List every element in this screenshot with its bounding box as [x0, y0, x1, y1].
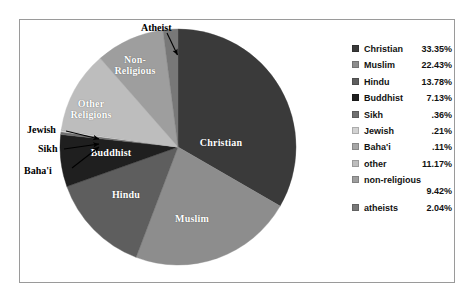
- legend-item-label: other: [364, 159, 387, 169]
- slice-label-buddhist: Buddhist: [82, 147, 140, 158]
- legend-item-value: 13.78%: [417, 77, 452, 87]
- legend-item-body: Hindu13.78%: [364, 77, 452, 87]
- slice-label-other-religions-line1: Other: [78, 98, 105, 109]
- legend-item-body: Buddhist7.13%: [364, 93, 452, 103]
- legend-item-label: Sikh: [364, 110, 383, 120]
- legend-item-label: Muslim: [364, 60, 395, 70]
- callout-label-sikh: Sikh: [38, 143, 57, 154]
- legend-swatch-icon: [352, 111, 359, 118]
- legend-item-value: .11%: [428, 142, 452, 152]
- legend-swatch-icon: [352, 143, 359, 150]
- legend-item-body: Baha'i.11%: [364, 142, 452, 152]
- legend-item-label: Buddhist: [364, 93, 403, 103]
- legend-item-body: Jewish.21%: [364, 126, 452, 136]
- legend-swatch-icon: [352, 127, 359, 134]
- legend-swatch-icon: [352, 176, 359, 183]
- legend-item-value: .36%: [427, 110, 452, 120]
- callout-label-jewish: Jewish: [27, 124, 56, 135]
- legend-item-body: Christian33.35%: [364, 44, 452, 54]
- legend-item-value: 22.43%: [417, 60, 452, 70]
- callout-label-atheist: Atheist: [141, 22, 172, 33]
- slice-label-other-religions-line2: Religions: [70, 109, 111, 120]
- legend-swatch-icon: [352, 61, 359, 68]
- legend-swatch-icon: [352, 78, 359, 85]
- legend-item-label: Christian: [364, 44, 403, 54]
- legend-item-value: 7.13%: [422, 93, 452, 103]
- legend-item[interactable]: non-religious9.42%: [352, 175, 452, 196]
- legend-item-body: non-religious9.42%: [364, 175, 452, 196]
- slice-label-christian: Christian: [186, 137, 256, 148]
- legend-item-body: Sikh.36%: [364, 110, 452, 120]
- legend-item[interactable]: Jewish.21%: [352, 126, 452, 136]
- legend-item-value: .21%: [427, 126, 452, 136]
- legend-item-value: 33.35%: [417, 44, 452, 54]
- legend-item[interactable]: Baha'i.11%: [352, 142, 452, 152]
- legend-item-body: other11.17%: [364, 159, 452, 169]
- slice-label-other-religions: Other Religions: [60, 98, 122, 120]
- legend-item-value: 11.17%: [418, 159, 452, 169]
- legend-swatch-icon: [352, 160, 359, 167]
- chart-legend: Christian33.35%Muslim22.43%Hindu13.78%Bu…: [352, 44, 452, 219]
- legend-item-body: atheists2.04%: [364, 203, 452, 213]
- legend-item-value: 9.42%: [364, 186, 452, 196]
- slice-label-non-religious-line1: Non-: [124, 54, 146, 65]
- slice-label-non-religious-line2: Religious: [114, 65, 155, 76]
- legend-swatch-icon: [352, 45, 359, 52]
- legend-item-label: non-religious: [364, 175, 421, 185]
- legend-item-label: atheists: [364, 203, 398, 213]
- legend-item[interactable]: Sikh.36%: [352, 110, 452, 120]
- legend-swatch-icon: [352, 204, 359, 211]
- legend-item-label: Baha'i: [364, 142, 391, 152]
- legend-item-label: Jewish: [364, 126, 394, 136]
- legend-item-label: Hindu: [364, 77, 390, 87]
- legend-swatch-icon: [352, 94, 359, 101]
- pie-chart-figure: Christian Muslim Hindu Buddhist Other Re…: [0, 0, 471, 297]
- slice-label-muslim: Muslim: [162, 213, 222, 224]
- legend-item-body: Muslim22.43%: [364, 60, 452, 70]
- slice-label-hindu: Hindu: [102, 189, 150, 200]
- legend-item[interactable]: Buddhist7.13%: [352, 93, 452, 103]
- slice-label-non-religious: Non- Religious: [106, 54, 164, 76]
- legend-item[interactable]: Hindu13.78%: [352, 77, 452, 87]
- pie-chart: Christian Muslim Hindu Buddhist Other Re…: [58, 27, 298, 267]
- callout-label-bahai: Baha'i: [24, 165, 52, 176]
- legend-item[interactable]: atheists2.04%: [352, 203, 452, 213]
- legend-item[interactable]: Christian33.35%: [352, 44, 452, 54]
- legend-item[interactable]: Muslim22.43%: [352, 60, 452, 70]
- legend-item[interactable]: other11.17%: [352, 159, 452, 169]
- legend-item-value: 2.04%: [422, 203, 452, 213]
